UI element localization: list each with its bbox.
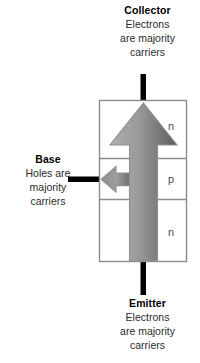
transistor-schematic-svg: n p n (0, 0, 200, 363)
region-label-n-top: n (168, 120, 174, 132)
emitter-lead (141, 261, 147, 295)
region-label-n-bottom: n (168, 226, 174, 238)
transistor-diagram-figure: Collector Electrons are majority carrier… (0, 0, 200, 363)
region-label-p-middle: p (168, 173, 174, 185)
base-lead (68, 177, 100, 183)
collector-lead (141, 74, 147, 101)
